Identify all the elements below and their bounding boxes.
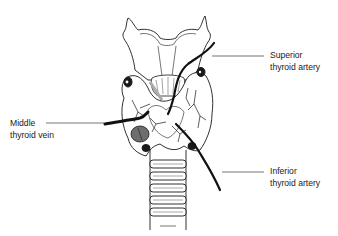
label-superior-line2: thyroid artery	[270, 61, 320, 73]
label-middle-thyroid-vein: Middle thyroid vein	[10, 117, 54, 141]
label-inferior-line2: thyroid artery	[270, 177, 320, 189]
label-superior-line1: Superior	[270, 49, 320, 61]
label-superior-thyroid-artery: Superior thyroid artery	[270, 49, 320, 73]
label-middle-line1: Middle	[10, 117, 54, 129]
label-middle-line2: thyroid vein	[10, 129, 54, 141]
label-inferior-line1: Inferior	[270, 165, 320, 177]
label-inferior-thyroid-artery: Inferior thyroid artery	[270, 165, 320, 189]
trachea	[150, 150, 186, 230]
